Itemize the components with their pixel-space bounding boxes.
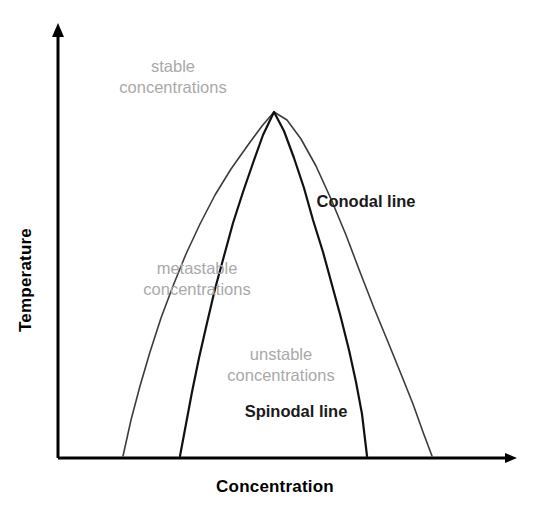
y-axis-title-text: Temperature: [16, 228, 36, 332]
region-label-unstable: unstable concentrations: [227, 344, 334, 386]
plot-canvas: [0, 0, 550, 513]
x-axis-title: Concentration: [0, 477, 550, 497]
curve-label-spinodal: Spinodal line: [245, 402, 348, 421]
region-label-stable: stable concentrations: [119, 56, 226, 98]
axis-group: [58, 36, 506, 458]
curve-label-conodal: Conodal line: [317, 192, 416, 211]
region-label-metastable: metastable concentrations: [143, 258, 250, 300]
phase-diagram-figure: stable concentrations metastable concent…: [0, 0, 550, 513]
